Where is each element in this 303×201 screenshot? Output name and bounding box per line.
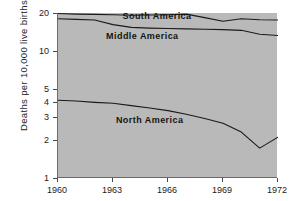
series-annotation: North America [116,115,184,125]
y-tick-label: 3 [44,112,49,122]
series-annotation: South America [122,11,191,21]
x-tick-label: 1969 [212,185,232,195]
y-tick-label: 2 [44,135,49,145]
x-tick-mark [112,178,113,182]
x-tick-mark [222,178,223,182]
y-tick-label: 5 [44,84,49,94]
x-tick-mark [167,178,168,182]
series-annotation: Middle America [106,31,179,41]
y-tick-label: 1 [44,173,49,183]
x-tick-mark [277,178,278,182]
x-tick-label: 1960 [47,185,67,195]
y-tick-label: 10 [39,46,49,56]
x-tick-label: 1963 [102,185,122,195]
x-tick-mark [57,178,58,182]
y-tick-label: 4 [44,97,49,107]
x-tick-label: 1966 [157,185,177,195]
y-tick-label: 20 [39,8,49,18]
x-tick-label: 1972 [267,185,287,195]
x-axis: 19601963196619691972 [57,178,282,201]
chart-figure: Deaths per 10,000 live births 123451020 … [0,0,303,201]
y-axis: 123451020 [0,13,57,178]
plot-area: South AmericaMiddle AmericaNorth America [57,13,277,178]
